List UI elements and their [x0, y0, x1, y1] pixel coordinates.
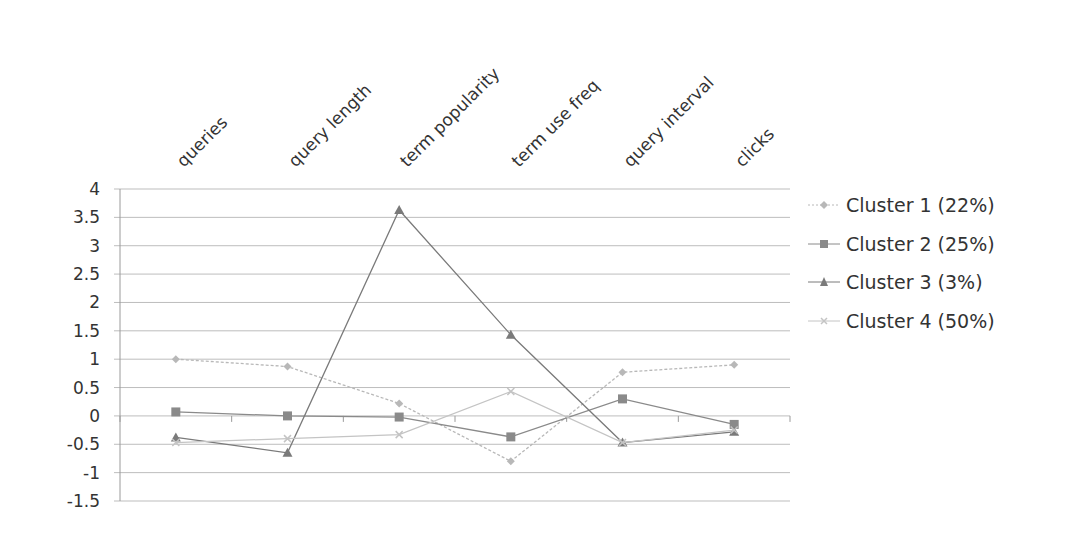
square-marker-icon — [618, 394, 627, 403]
x-category-label: query interval — [619, 72, 717, 170]
x-category-label: queries — [173, 112, 232, 171]
diamond-marker-icon — [808, 198, 840, 212]
diamond-marker-icon — [395, 399, 403, 407]
triangle-marker-icon — [808, 275, 840, 289]
y-tick-label: 1.5 — [73, 321, 100, 341]
diamond-marker-icon — [284, 363, 292, 371]
y-tick-label: -1.5 — [67, 491, 100, 511]
y-tick-label: 1 — [89, 349, 100, 369]
y-tick-label: 0.5 — [73, 378, 100, 398]
x-category-label: clicks — [731, 123, 778, 170]
y-tick-label: 0 — [89, 406, 100, 426]
legend-label: Cluster 4 (50%) — [846, 310, 995, 332]
legend: Cluster 1 (22%) Cluster 2 (25%) Cluster … — [808, 186, 995, 340]
square-marker-icon — [395, 413, 404, 422]
y-tick-label: 4 — [89, 179, 100, 199]
legend-label: Cluster 3 (3%) — [846, 271, 983, 293]
gridlines — [114, 189, 790, 501]
x-marker-icon — [507, 388, 514, 395]
y-tick-label: 3 — [89, 236, 100, 256]
x-axis-category-labels: queriesquery lengthterm popularityterm u… — [173, 63, 779, 171]
legend-label: Cluster 2 (25%) — [846, 233, 995, 255]
diamond-marker-icon — [619, 368, 627, 376]
y-tick-label: -1 — [83, 463, 100, 483]
legend-item-cluster-1: Cluster 1 (22%) — [808, 186, 995, 225]
square-marker-icon — [808, 237, 840, 251]
y-axis-ticks: 43.532.521.510.50-0.5-1-1.5 — [67, 179, 100, 511]
y-tick-label: 3.5 — [73, 207, 100, 227]
data-series — [171, 205, 739, 465]
diamond-marker-icon — [730, 361, 738, 369]
legend-item-cluster-4: Cluster 4 (50%) — [808, 302, 995, 341]
y-tick-label: 2 — [89, 292, 100, 312]
triangle-marker-icon — [394, 205, 404, 214]
series-line — [176, 359, 734, 461]
x-marker-icon — [808, 314, 840, 328]
square-marker-icon — [506, 432, 515, 441]
legend-label: Cluster 1 (22%) — [846, 194, 995, 216]
y-tick-label: 2.5 — [73, 264, 100, 284]
square-marker-icon — [283, 411, 292, 420]
diamond-marker-icon — [507, 457, 515, 465]
x-category-label: query length — [284, 80, 375, 171]
legend-item-cluster-2: Cluster 2 (25%) — [808, 225, 995, 264]
legend-item-cluster-3: Cluster 3 (3%) — [808, 263, 995, 302]
square-marker-icon — [171, 407, 180, 416]
y-tick-label: -0.5 — [67, 434, 100, 454]
x-category-label: term use freq — [508, 75, 604, 171]
diamond-marker-icon — [172, 355, 180, 363]
x-category-label: term popularity — [396, 63, 504, 171]
